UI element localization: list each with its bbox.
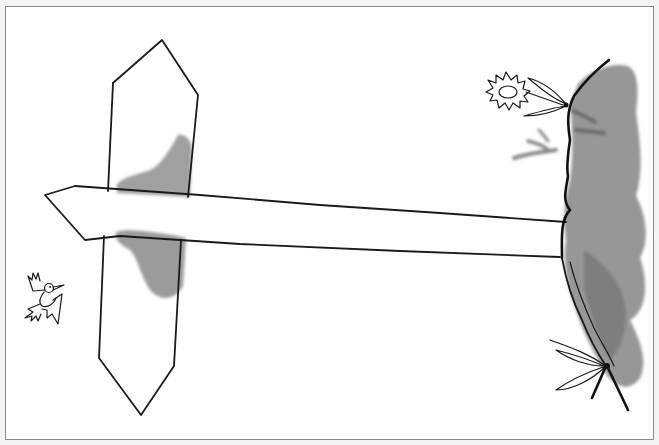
signpost	[99, 40, 198, 415]
illustration-svg	[0, 0, 659, 445]
arrow-sign	[45, 186, 566, 257]
post-shadow-wash	[116, 135, 192, 298]
bird	[25, 273, 64, 324]
illustration-canvas	[0, 0, 659, 445]
daisy-flower	[486, 72, 569, 116]
